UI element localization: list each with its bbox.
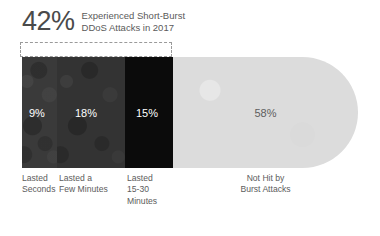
headline-description-line1: Experienced Short-Burst <box>82 10 186 22</box>
category-label-line2: Seconds <box>22 184 55 195</box>
headline: 42% Experienced Short-Burst DDoS Attacks… <box>22 6 185 36</box>
category-label-line2: 15-30 <box>127 184 157 195</box>
category-label-not-hit-by-burst-attacks: Not Hit by Burst Attacks <box>173 173 358 196</box>
bar-segment-value: 18% <box>75 107 97 119</box>
category-label-lasted-15-30-minutes: Lasted 15-30 Minutes <box>127 173 157 207</box>
bar-segment-lasted-a-few-minutes[interactable]: 18% <box>57 57 125 168</box>
category-label-line1: Lasted <box>127 173 157 184</box>
category-label-line1: Lasted a <box>59 173 108 184</box>
bar-segment-value: 15% <box>136 107 158 119</box>
bar-segment-not-hit-by-burst-attacks[interactable]: 58% <box>173 57 358 168</box>
category-label-line1: Not Hit by <box>173 173 358 184</box>
bar-segment-lasted-seconds[interactable]: 9% <box>22 57 57 168</box>
bar-segment-value: 9% <box>29 107 45 119</box>
category-label-line1: Lasted <box>22 173 55 184</box>
category-label-line3: Minutes <box>127 196 157 207</box>
bar-segment-value: 58% <box>254 107 276 119</box>
stacked-bar-chart: 9% 18% 15% 58% <box>22 57 358 168</box>
highlight-bracket <box>20 42 172 57</box>
ddos-burst-attack-infographic: 42% Experienced Short-Burst DDoS Attacks… <box>0 0 380 236</box>
category-label-line2: Burst Attacks <box>173 184 358 195</box>
category-label-lasted-seconds: Lasted Seconds <box>22 173 55 196</box>
category-labels: Lasted Seconds Lasted a Few Minutes Last… <box>22 173 358 231</box>
bar-segment-lasted-15-30-minutes[interactable]: 15% <box>125 57 173 168</box>
headline-description-line2: DDoS Attacks in 2017 <box>82 22 186 34</box>
headline-percent: 42% <box>22 6 75 36</box>
category-label-line2: Few Minutes <box>59 184 108 195</box>
category-label-lasted-a-few-minutes: Lasted a Few Minutes <box>59 173 108 196</box>
headline-description: Experienced Short-Burst DDoS Attacks in … <box>82 6 186 34</box>
